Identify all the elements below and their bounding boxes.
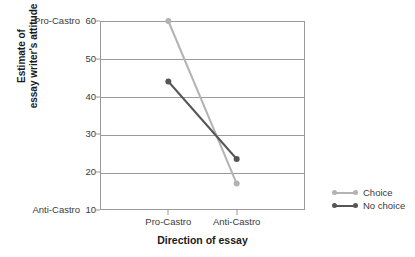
legend-item[interactable]: No choice: [332, 199, 405, 212]
legend: ChoiceNo choice: [332, 186, 405, 212]
x-tick-mark: [168, 210, 169, 215]
x-axis-title: Direction of essay: [100, 234, 305, 246]
legend-label: No choice: [363, 201, 405, 211]
y-tick-label: 10: [36, 205, 96, 215]
gridline: [101, 59, 304, 60]
gridline: [101, 97, 304, 98]
chart-container: Estimate of essay writer's attitude Pro-…: [0, 0, 415, 257]
y-tick-label: 50: [36, 54, 96, 64]
legend-swatch-icon: [332, 201, 358, 210]
legend-label: Choice: [363, 188, 393, 198]
x-tick-mark: [236, 210, 237, 215]
legend-swatch-icon: [332, 188, 358, 197]
gridline: [101, 135, 304, 136]
y-tick-label: 60: [36, 16, 96, 26]
y-tick-label: 30: [36, 130, 96, 140]
y-tick-label: 40: [36, 92, 96, 102]
plot-area: [100, 21, 305, 210]
gridline: [101, 173, 304, 174]
legend-item[interactable]: Choice: [332, 186, 405, 199]
y-tick-label: 20: [36, 167, 96, 177]
x-tick-label: Anti-Castro: [192, 217, 282, 227]
